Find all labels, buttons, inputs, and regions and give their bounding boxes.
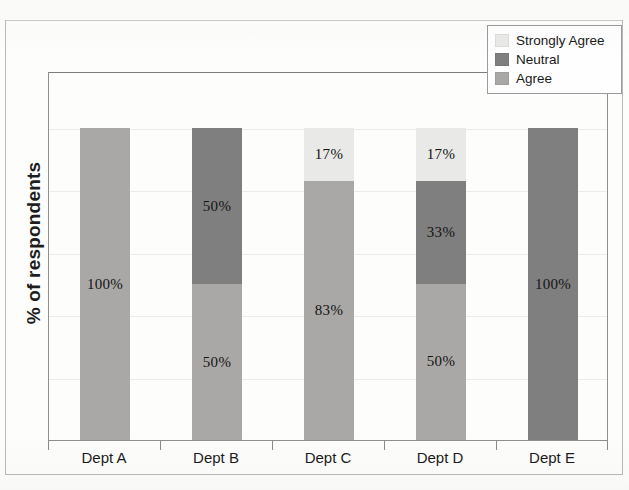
x-axis-label-dept-e: Dept E	[496, 449, 608, 466]
bar-segment[interactable]: 83%	[304, 181, 354, 440]
bar-segment-label: 100%	[87, 276, 123, 293]
bar-segment[interactable]: 50%	[192, 284, 242, 440]
x-axis-label-dept-a: Dept A	[48, 449, 160, 466]
bar-segment[interactable]: 50%	[192, 128, 242, 284]
legend-item-label: Strongly Agree	[516, 33, 605, 48]
bar-group: 100%	[49, 73, 161, 440]
x-axis-label-dept-d: Dept D	[384, 449, 496, 466]
bar-segment[interactable]: 100%	[80, 128, 130, 440]
stacked-bar[interactable]: 100%	[528, 128, 578, 440]
bar-segment-label: 50%	[427, 353, 455, 370]
bar-segment[interactable]: 17%	[304, 128, 354, 181]
chart-page: % of respondents 100%50%50%17%83%17%33%5…	[0, 0, 629, 490]
y-axis-title: % of respondents	[23, 113, 45, 373]
legend-swatch-icon	[495, 72, 509, 85]
bar-group: 50%50%	[161, 73, 273, 440]
legend-item-label: Neutral	[516, 52, 560, 67]
bar-segment[interactable]: 100%	[528, 128, 578, 440]
legend-swatch-icon	[495, 34, 509, 47]
legend-item-label: Agree	[516, 71, 552, 86]
stacked-bar[interactable]: 100%	[80, 128, 130, 440]
bar-segment[interactable]: 17%	[416, 128, 466, 181]
bar-segment[interactable]: 50%	[416, 284, 466, 440]
bar-segment-label: 50%	[203, 198, 231, 215]
legend-swatch-icon	[495, 53, 509, 66]
x-axis-label-dept-b: Dept B	[160, 449, 272, 466]
legend-item-agree[interactable]: Agree	[495, 69, 615, 88]
stacked-bar[interactable]: 17%83%	[304, 128, 354, 440]
x-axis-label-dept-c: Dept C	[272, 449, 384, 466]
stacked-bar[interactable]: 17%33%50%	[416, 128, 466, 440]
bar-group: 100%	[497, 73, 609, 440]
chart-legend: Strongly AgreeNeutralAgree	[487, 25, 622, 94]
bar-segment-label: 100%	[535, 276, 571, 293]
bar-group: 17%33%50%	[385, 73, 497, 440]
bar-segment[interactable]: 33%	[416, 181, 466, 284]
bar-segment-label: 50%	[203, 354, 231, 371]
bar-segment-label: 33%	[427, 224, 455, 241]
bar-segment-label: 17%	[427, 146, 455, 163]
x-axis-labels: Dept ADept BDept CDept DDept E	[48, 449, 608, 475]
plot-area: 100%50%50%17%83%17%33%50%100%	[48, 72, 608, 441]
legend-item-neutral[interactable]: Neutral	[495, 50, 615, 69]
bar-segment-label: 83%	[315, 302, 343, 319]
bar-group: 17%83%	[273, 73, 385, 440]
legend-item-strongly-agree[interactable]: Strongly Agree	[495, 31, 615, 50]
stacked-bar[interactable]: 50%50%	[192, 128, 242, 440]
bar-segment-label: 17%	[315, 146, 343, 163]
bars-layer: 100%50%50%17%83%17%33%50%100%	[49, 73, 607, 440]
